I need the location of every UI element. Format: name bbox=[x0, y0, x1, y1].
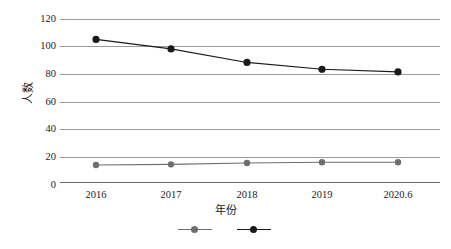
x-tick-label-2017: 2017 bbox=[136, 188, 206, 202]
legend-dot-icon-series-2 bbox=[250, 226, 257, 233]
x-axis-tick-labels: 2016 2017 2018 2019 2020.6 bbox=[60, 188, 440, 204]
data-point bbox=[319, 159, 325, 165]
x-axis-title: 年份 bbox=[0, 203, 451, 218]
data-point bbox=[93, 162, 99, 168]
figure-caption bbox=[0, 241, 451, 249]
y-tick-label-40: 40 bbox=[26, 124, 56, 134]
y-tick-label-80: 80 bbox=[26, 69, 56, 79]
data-point bbox=[168, 161, 174, 167]
line-chart: 人数 120 100 80 60 40 20 0 2016 2017 2018 … bbox=[0, 0, 451, 249]
x-tick-label-2019: 2019 bbox=[287, 188, 357, 202]
series-2-markers bbox=[92, 36, 401, 76]
x-tick-label-2016: 2016 bbox=[61, 188, 131, 202]
data-point bbox=[394, 68, 401, 75]
data-point bbox=[395, 159, 401, 165]
legend-dot-icon-series-1 bbox=[191, 226, 198, 233]
data-point bbox=[243, 59, 250, 66]
x-tick-label-2018: 2018 bbox=[212, 188, 282, 202]
legend-item-series-2[interactable] bbox=[237, 229, 274, 230]
legend-item-series-1[interactable] bbox=[178, 229, 215, 230]
plot-area bbox=[60, 14, 440, 186]
data-point bbox=[318, 66, 325, 73]
y-tick-label-0: 0 bbox=[26, 180, 56, 190]
y-tick-label-20: 20 bbox=[26, 152, 56, 162]
y-tick-label-120: 120 bbox=[26, 14, 56, 24]
series-2-line bbox=[96, 39, 398, 72]
y-tick-label-100: 100 bbox=[26, 41, 56, 51]
series-svg bbox=[60, 14, 440, 186]
chart-legend bbox=[0, 222, 451, 236]
data-point bbox=[244, 160, 250, 166]
data-point bbox=[167, 45, 174, 52]
x-tick-label-2020-6: 2020.6 bbox=[363, 188, 433, 202]
legend-line-icon-series-1 bbox=[178, 229, 212, 230]
series-1-markers bbox=[93, 159, 401, 168]
data-point bbox=[92, 36, 99, 43]
legend-line-icon-series-2 bbox=[237, 229, 271, 230]
y-tick-label-60: 60 bbox=[26, 97, 56, 107]
